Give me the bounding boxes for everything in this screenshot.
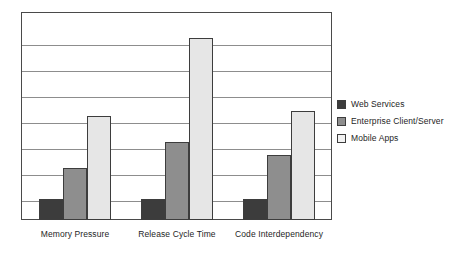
legend-item-label: Mobile Apps: [351, 133, 398, 144]
bar-2-group-3: [267, 155, 291, 220]
legend-item-label: Web Services: [351, 99, 404, 110]
bar-1-group-3: [243, 199, 267, 220]
x-axis-category-labels: Memory PressureRelease Cycle TimeCode In…: [21, 228, 332, 244]
bar-2-group-2: [165, 142, 189, 220]
bar-1-group-2: [141, 199, 165, 220]
dark-gray-swatch-icon: [337, 100, 346, 109]
bar-3-group-2: [189, 38, 213, 220]
x-axis-label-3: Code Interdependency: [219, 228, 339, 240]
legend-item-web-services[interactable]: Web Services: [337, 97, 450, 112]
medium-gray-swatch-icon: [337, 117, 346, 126]
legend-item-label: Enterprise Client/Server: [351, 116, 444, 127]
bar-series-layer: [21, 12, 332, 220]
legend-item-enterprise-client-server[interactable]: Enterprise Client/Server: [337, 114, 450, 129]
light-gray-swatch-icon: [337, 134, 346, 143]
bar-1-group-1: [39, 199, 63, 220]
bar-3-group-1: [87, 116, 111, 220]
bar-2-group-1: [63, 168, 87, 220]
grouped-bar-chart: Memory PressureRelease Cycle TimeCode In…: [0, 0, 454, 254]
chart-legend: Web Services Enterprise Client/Server Mo…: [337, 97, 450, 148]
legend-item-mobile-apps[interactable]: Mobile Apps: [337, 131, 450, 146]
bar-3-group-3: [291, 111, 315, 220]
